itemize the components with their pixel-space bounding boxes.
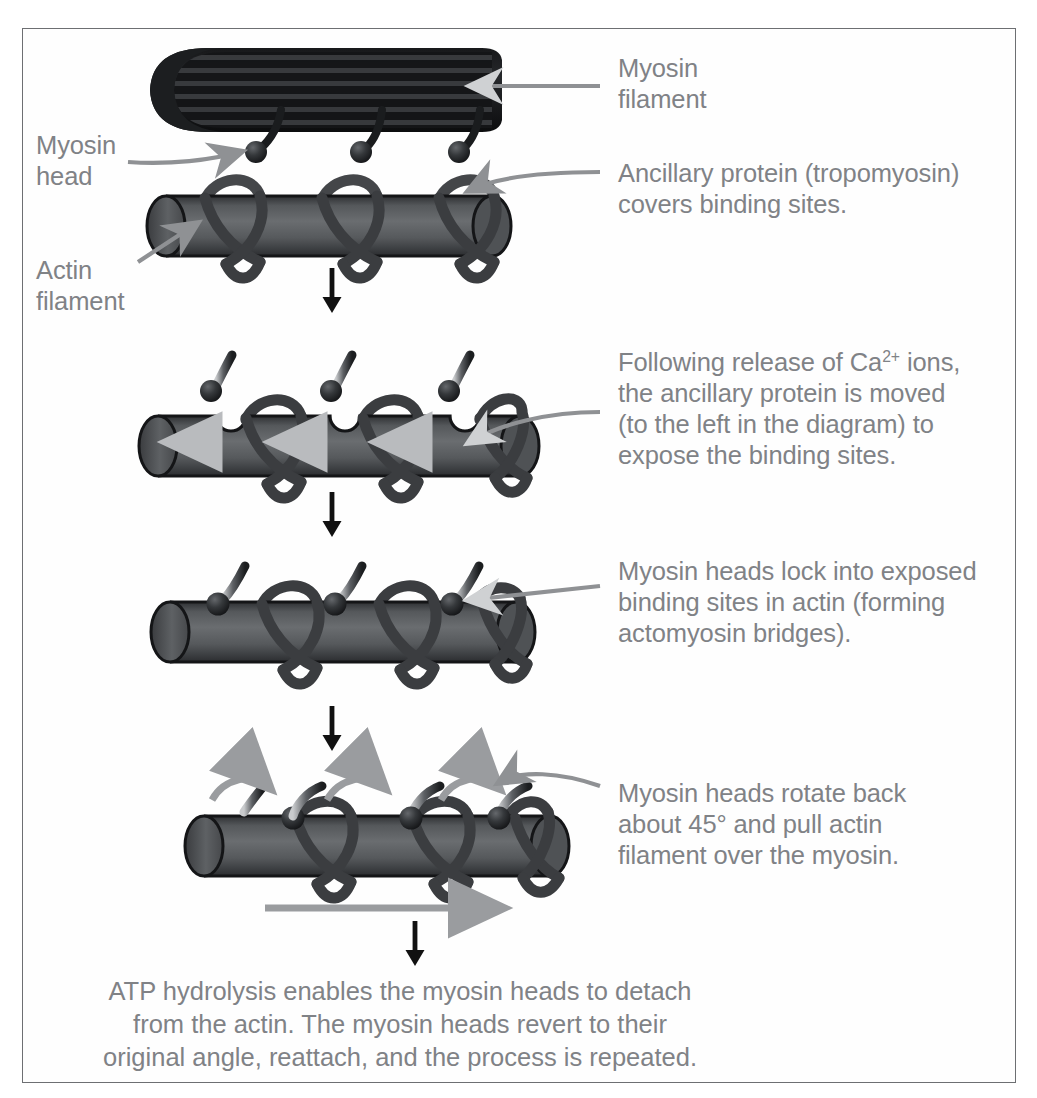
panel-3-illustration — [151, 566, 600, 684]
arrow-down-icon — [402, 921, 428, 967]
panel-1-illustration — [128, 48, 600, 278]
step2-text-pre: Following release of Ca — [618, 348, 882, 376]
label-step-3: Myosin heads lock into exposed binding s… — [618, 556, 976, 649]
final-caption: ATP hydrolysis enables the myosin heads … — [50, 975, 750, 1074]
label-myosin-head: Myosin head — [36, 130, 116, 192]
label-step-2: Following release of Ca2+ ions, the anci… — [618, 347, 960, 471]
arrow-down-icon — [319, 706, 345, 752]
arrow-down-icon — [319, 268, 345, 314]
leader-panel-4 — [500, 774, 600, 786]
myosin-filament — [150, 48, 502, 132]
label-ancillary-protein: Ancillary protein (tropomyosin) covers b… — [618, 158, 959, 220]
leader-myosin-head — [128, 152, 240, 163]
actin-filament-panel-2 — [139, 399, 539, 498]
actin-filament-panel-1 — [147, 180, 511, 278]
label-actin-filament: Actin filament — [36, 255, 125, 317]
panel-4-illustration — [185, 774, 600, 908]
label-myosin-filament: Myosin filament — [618, 53, 707, 115]
panel-2-illustration — [139, 355, 600, 498]
figure-root: Myosin filament Myosin head Actin filame… — [0, 0, 1037, 1098]
label-step-4: Myosin heads rotate back about 45° and p… — [618, 778, 906, 871]
step2-charge: 2+ — [882, 348, 900, 365]
myosin-heads-panel-2 — [200, 355, 470, 402]
arrow-down-icon — [319, 492, 345, 538]
